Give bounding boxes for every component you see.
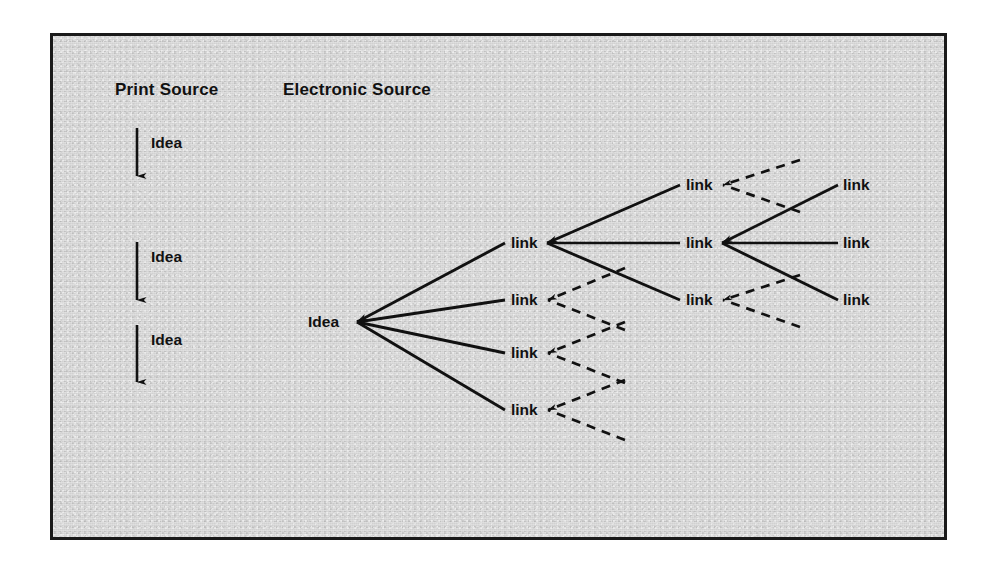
electronic-level3-link-1: link xyxy=(843,176,870,194)
electronic-level1-link-4: link xyxy=(511,401,538,419)
electronic-level2-link-2: link xyxy=(686,234,713,252)
electronic-level3-link-2: link xyxy=(843,234,870,252)
figure-frame xyxy=(50,33,947,540)
electronic-level2-link-3: link xyxy=(686,291,713,309)
paper-grain-texture xyxy=(53,36,944,537)
electronic-level1-link-2: link xyxy=(511,291,538,309)
print-source-heading: Print Source xyxy=(115,80,218,100)
electronic-level1-link-3: link xyxy=(511,344,538,362)
electronic-source-heading: Electronic Source xyxy=(283,80,431,100)
figure-root: Print Source Electronic Source Idea Idea… xyxy=(0,0,1002,572)
electronic-root-idea-label: Idea xyxy=(308,313,339,331)
electronic-level3-link-3: link xyxy=(843,291,870,309)
paper-grain-texture-fine xyxy=(53,36,944,537)
electronic-level1-link-1: link xyxy=(511,234,538,252)
electronic-level2-link-1: link xyxy=(686,176,713,194)
print-idea-label-2: Idea xyxy=(151,248,182,266)
print-idea-label-3: Idea xyxy=(151,331,182,349)
print-idea-label-1: Idea xyxy=(151,134,182,152)
